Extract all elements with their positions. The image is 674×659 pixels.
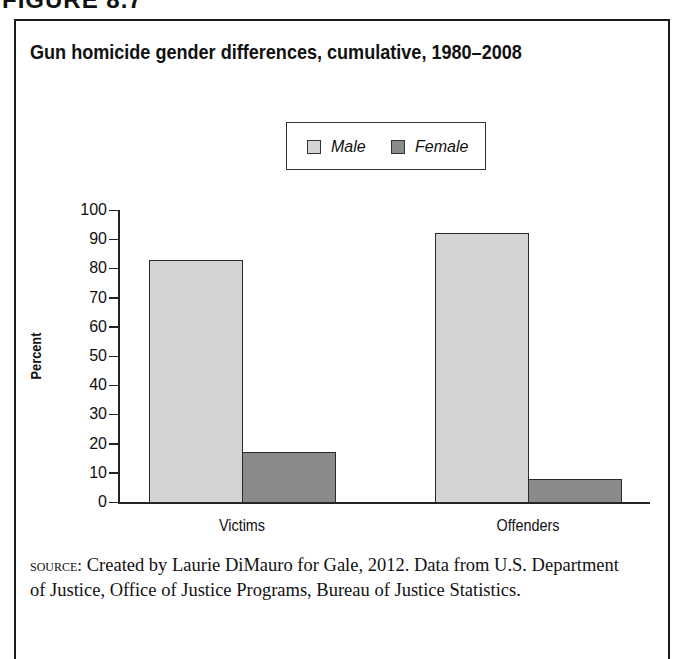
- bar-offenders-female: [528, 479, 622, 503]
- chart-title: Gun homicide gender differences, cumulat…: [30, 40, 522, 64]
- source-lead: source:: [30, 556, 82, 575]
- bar-victims-female: [242, 452, 336, 503]
- y-tick-label: 10: [67, 464, 107, 482]
- source-text: Created by Laurie DiMauro for Gale, 2012…: [30, 555, 619, 600]
- male-swatch-icon: [307, 140, 321, 154]
- legend-label-female: Female: [415, 138, 468, 156]
- y-tick-label: 40: [67, 376, 107, 394]
- y-tick: [109, 385, 118, 387]
- bar-victims-male: [149, 260, 243, 503]
- y-axis-line: [118, 210, 120, 502]
- y-tick-label: 0: [67, 493, 107, 511]
- category-label-victims: Victims: [219, 517, 265, 535]
- y-tick: [109, 210, 118, 212]
- bar-offenders-male: [435, 233, 529, 503]
- y-tick-label: 30: [67, 405, 107, 423]
- y-tick-label: 50: [67, 347, 107, 365]
- y-tick: [109, 239, 118, 241]
- y-tick-label: 20: [67, 435, 107, 453]
- y-tick-label: 90: [67, 230, 107, 248]
- y-tick: [109, 472, 118, 474]
- legend-item-female: Female: [391, 138, 468, 156]
- y-tick-label: 60: [67, 318, 107, 336]
- y-tick: [109, 414, 118, 416]
- y-tick: [109, 443, 118, 445]
- legend-item-male: Male: [307, 138, 366, 156]
- y-tick-label: 80: [67, 259, 107, 277]
- y-tick: [109, 356, 118, 358]
- y-tick-label: 100: [67, 201, 107, 219]
- figure-label: FIGURE 8.7: [2, 0, 143, 14]
- y-tick: [109, 297, 118, 299]
- legend: Male Female: [286, 122, 486, 170]
- y-tick: [109, 268, 118, 270]
- legend-label-male: Male: [331, 138, 366, 156]
- y-tick: [109, 502, 118, 504]
- source-note: source: Created by Laurie DiMauro for Ga…: [30, 553, 630, 602]
- category-label-offenders: Offenders: [497, 517, 560, 535]
- y-axis-label: Percent: [27, 333, 44, 380]
- female-swatch-icon: [391, 140, 405, 154]
- y-tick-label: 70: [67, 289, 107, 307]
- y-tick: [109, 326, 118, 328]
